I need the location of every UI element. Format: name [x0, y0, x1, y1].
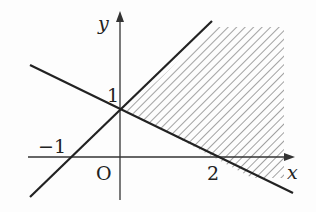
- tick-label-x-2: 2: [207, 162, 219, 184]
- x-axis-label: x: [287, 161, 298, 183]
- y-axis-arrow-icon: [116, 11, 124, 22]
- x-axis-arrow-icon: [284, 153, 295, 161]
- tick-label-x-neg1: −1: [38, 135, 66, 157]
- y-axis-label: y: [97, 12, 109, 34]
- shaded-region: [126, 27, 284, 178]
- coordinate-plane: y x O 1 −1 2: [0, 0, 316, 212]
- origin-label: O: [96, 162, 112, 184]
- diagram-canvas: y x O 1 −1 2: [0, 0, 316, 212]
- tick-label-y-1: 1: [107, 84, 119, 106]
